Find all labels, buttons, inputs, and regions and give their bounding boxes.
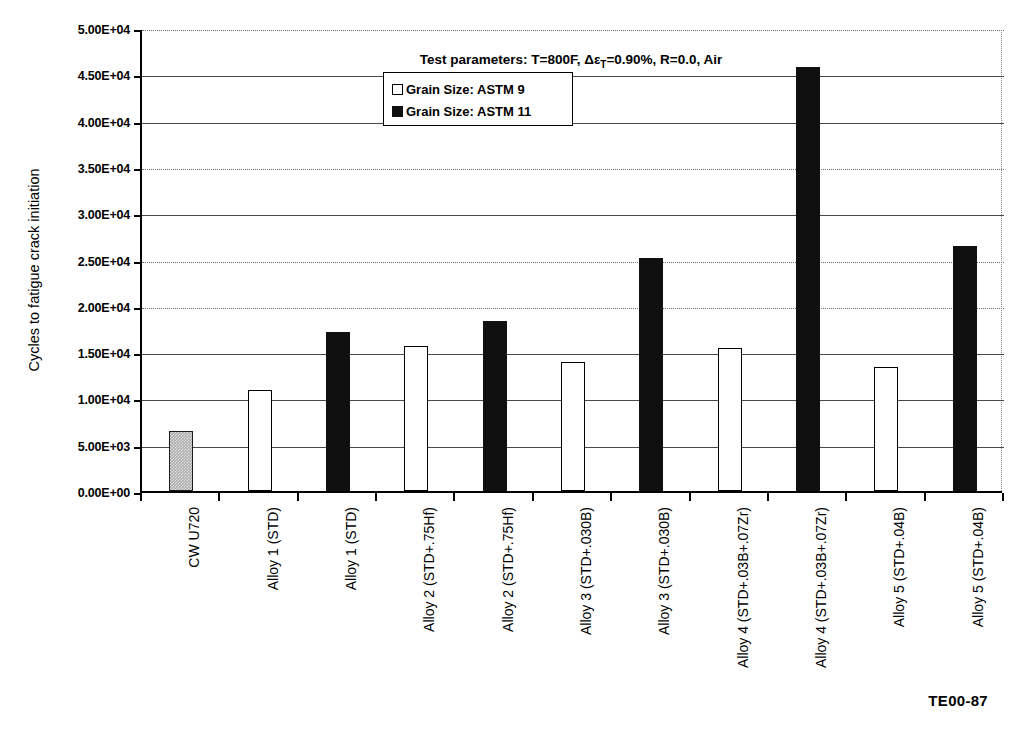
legend: Grain Size: ASTM 9 Grain Size: ASTM 11 bbox=[383, 72, 573, 126]
y-axis-tick-label: 0.00E+00 bbox=[18, 486, 130, 500]
y-axis-tick-label: 3.00E+04 bbox=[18, 208, 130, 222]
gridline bbox=[142, 354, 1004, 355]
chart-title-suffix: =0.90%, R=0.0, Air bbox=[606, 52, 722, 67]
y-axis-tick-label: 1.50E+04 bbox=[18, 347, 130, 361]
x-axis-category-label: Alloy 2 (STD+.75Hf) bbox=[421, 507, 437, 632]
legend-label-astm9: Grain Size: ASTM 9 bbox=[406, 82, 525, 97]
legend-label-astm11: Grain Size: ASTM 11 bbox=[406, 104, 531, 119]
y-axis-tick-label: 5.00E+03 bbox=[18, 440, 130, 454]
y-axis-tick-label: 2.00E+04 bbox=[18, 301, 130, 315]
legend-item-astm9: Grain Size: ASTM 9 bbox=[392, 78, 572, 100]
gridline bbox=[142, 262, 1004, 263]
figure-reference-code: TE00-87 bbox=[928, 692, 988, 709]
x-axis-category-label: Alloy 4 (STD+.03B+.07Zr) bbox=[813, 507, 829, 668]
x-axis-tick-mark bbox=[689, 493, 691, 501]
x-axis-tick-mark bbox=[610, 493, 612, 501]
filled-square-icon bbox=[392, 106, 403, 117]
y-axis-tick-label: 3.50E+04 bbox=[18, 162, 130, 176]
bar bbox=[326, 332, 350, 491]
x-axis-tick-mark bbox=[453, 493, 455, 501]
x-axis-category-label: Alloy 3 (STD+.030B) bbox=[656, 507, 672, 635]
bar bbox=[796, 67, 820, 491]
x-axis-category-label: Alloy 2 (STD+.75Hf) bbox=[500, 507, 516, 632]
bar bbox=[718, 348, 742, 491]
x-axis-tick-mark bbox=[375, 493, 377, 501]
x-axis-category-label: Alloy 1 (STD) bbox=[343, 507, 359, 590]
y-axis-tick-label: 5.00E+04 bbox=[18, 23, 130, 37]
x-axis-tick-mark bbox=[1002, 493, 1004, 501]
y-axis-tick-label: 2.50E+04 bbox=[18, 255, 130, 269]
open-square-icon bbox=[392, 84, 403, 95]
chart-title-delta-epsilon: Δε bbox=[584, 52, 600, 67]
x-axis-category-label: Alloy 3 (STD+.030B) bbox=[578, 507, 594, 635]
x-axis-tick-mark bbox=[140, 493, 142, 501]
bar bbox=[169, 431, 193, 491]
bar bbox=[561, 362, 585, 491]
chart-figure: Cycles to fatigue crack initiation 0.00E… bbox=[0, 0, 1016, 733]
chart-title: Test parameters: T=800F, ΔεT=0.90%, R=0.… bbox=[140, 52, 1002, 70]
gridline bbox=[142, 215, 1004, 216]
bar bbox=[953, 246, 977, 491]
gridline bbox=[142, 308, 1004, 309]
x-axis-tick-mark bbox=[845, 493, 847, 501]
gridline bbox=[142, 169, 1004, 170]
gridline bbox=[142, 76, 1004, 77]
x-axis-category-label: Alloy 4 (STD+.03B+.07Zr) bbox=[735, 507, 751, 668]
gridline bbox=[142, 30, 1004, 31]
gridline bbox=[142, 123, 1004, 124]
x-axis-tick-mark bbox=[218, 493, 220, 501]
y-axis-tick-label: 1.00E+04 bbox=[18, 393, 130, 407]
bar bbox=[874, 367, 898, 491]
legend-item-astm11: Grain Size: ASTM 11 bbox=[392, 100, 572, 122]
y-axis-tick-label: 4.00E+04 bbox=[18, 116, 130, 130]
x-axis-category-label: Alloy 1 (STD) bbox=[265, 507, 281, 590]
x-axis-tick-mark bbox=[297, 493, 299, 501]
x-axis-tick-mark bbox=[532, 493, 534, 501]
bar bbox=[483, 321, 507, 491]
bar bbox=[639, 258, 663, 491]
x-axis-category-label: Alloy 5 (STD+.04B) bbox=[891, 507, 907, 627]
bar bbox=[248, 390, 272, 491]
x-axis-category-label: Alloy 5 (STD+.04B) bbox=[970, 507, 986, 627]
y-axis-tick-labels: 0.00E+005.00E+031.00E+041.50E+042.00E+04… bbox=[10, 0, 130, 733]
chart-title-prefix: Test parameters: T=800F, bbox=[420, 52, 584, 67]
bar bbox=[404, 346, 428, 491]
x-axis-category-label: CW U720 bbox=[186, 507, 202, 568]
y-axis-tick-label: 4.50E+04 bbox=[18, 69, 130, 83]
x-axis-tick-mark bbox=[924, 493, 926, 501]
x-axis-tick-mark bbox=[767, 493, 769, 501]
